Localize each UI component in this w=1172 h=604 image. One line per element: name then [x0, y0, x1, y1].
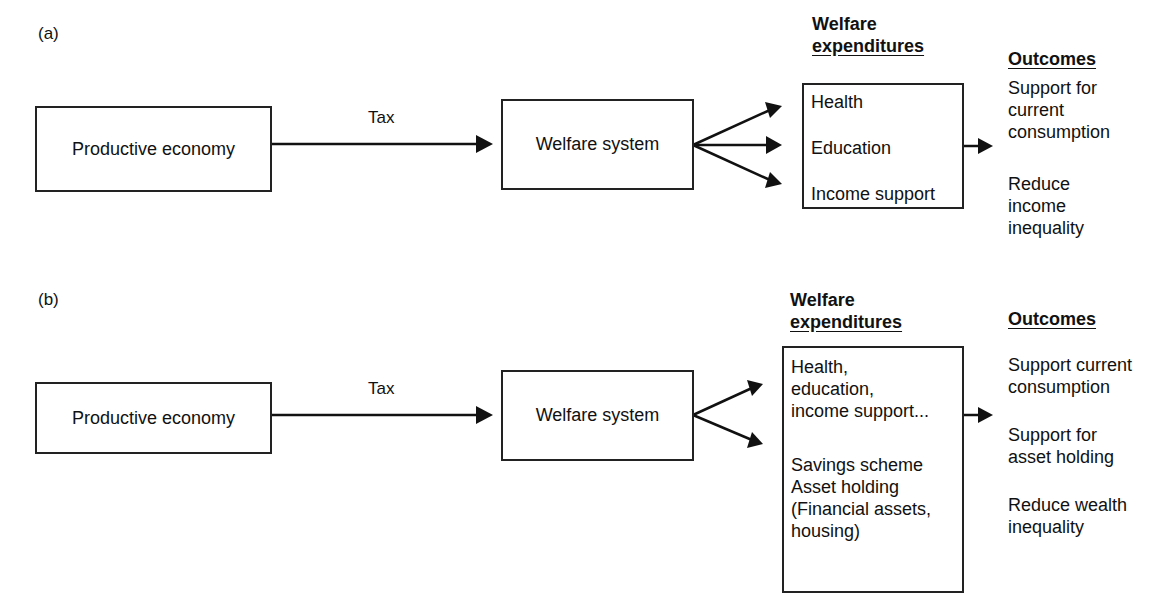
expenditure-group-current: Health, education, income support...: [791, 356, 929, 422]
panel-a-label: (a): [38, 24, 59, 44]
expenditure-item: Income support: [811, 183, 935, 205]
branch-arrow-income: [693, 145, 770, 180]
branch-arrow-upper: [693, 388, 752, 415]
outcome-item: Reduce income inequality: [1008, 173, 1084, 239]
arrows-layer: [0, 0, 1172, 604]
productive-economy-label: Productive economy: [72, 408, 235, 429]
outcomes-heading-a: Outcomes: [1008, 48, 1096, 70]
outcome-item: Support current consumption: [1008, 354, 1132, 398]
branch-arrow-lower: [693, 415, 752, 440]
productive-economy-box-b: Productive economy: [35, 382, 272, 454]
branch-arrow-health: [693, 110, 770, 145]
welfare-system-label: Welfare system: [536, 405, 660, 426]
tax-arrowhead-a: [476, 135, 493, 153]
expenditures-box-b: Health, education, income support... Sav…: [782, 346, 964, 593]
tax-label-a: Tax: [368, 108, 394, 128]
outcome-item: Support for current consumption: [1008, 77, 1110, 143]
tax-label-b: Tax: [368, 379, 394, 399]
expenditure-item: Health: [811, 91, 863, 113]
productive-economy-box-a: Productive economy: [35, 106, 272, 192]
welfare-system-box-b: Welfare system: [501, 370, 694, 461]
welfare-system-box-a: Welfare system: [501, 99, 694, 190]
expenditure-group-assets: Savings scheme Asset holding (Financial …: [791, 454, 931, 542]
outcome-item: Support for asset holding: [1008, 424, 1114, 468]
expenditures-heading-b: Welfare expenditures: [790, 289, 902, 333]
welfare-system-label: Welfare system: [536, 134, 660, 155]
expenditure-item: Education: [811, 137, 891, 159]
productive-economy-label: Productive economy: [72, 139, 235, 160]
outcome-item: Reduce wealth inequality: [1008, 494, 1127, 538]
expenditures-heading-a: Welfare expenditures: [812, 13, 924, 57]
tax-arrowhead-b: [476, 406, 493, 424]
expenditures-box-a: Health Education Income support: [802, 83, 964, 209]
outcomes-heading-b: Outcomes: [1008, 308, 1096, 330]
panel-b-label: (b): [38, 290, 59, 310]
